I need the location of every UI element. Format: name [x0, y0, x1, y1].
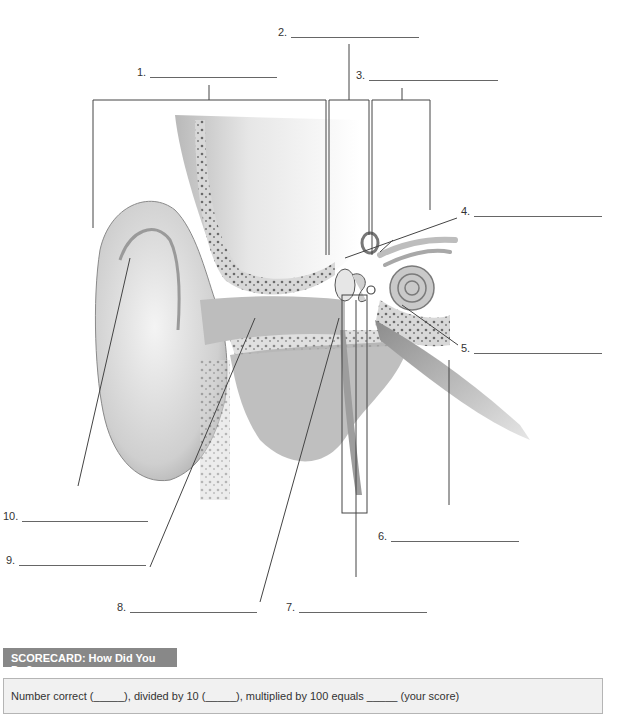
label-number: 8.: [117, 601, 126, 613]
label-number: 10.: [3, 510, 18, 522]
answer-blank[interactable]: [19, 555, 146, 566]
label-4[interactable]: 4.: [461, 205, 602, 217]
label-1[interactable]: 1.: [137, 66, 277, 78]
label-5[interactable]: 5.: [461, 342, 602, 354]
ear-diagram: 1. 2. 3. 4. 5. 6. 7. 8. 9. 10.: [0, 0, 626, 640]
answer-blank[interactable]: [299, 602, 427, 613]
label-10[interactable]: 10.: [3, 510, 148, 522]
answer-blank[interactable]: [474, 343, 602, 354]
label-8[interactable]: 8.: [117, 601, 257, 613]
answer-blank[interactable]: [369, 70, 498, 81]
label-number: 4.: [461, 205, 470, 217]
label-number: 2.: [278, 26, 287, 38]
ear-illustration: [0, 0, 626, 640]
label-2[interactable]: 2.: [278, 26, 419, 38]
scorecard-title: SCORECARD: How Did You Do?: [3, 648, 177, 667]
answer-blank[interactable]: [474, 206, 602, 217]
label-9[interactable]: 9.: [6, 554, 146, 566]
label-number: 3.: [356, 69, 365, 81]
answer-blank[interactable]: [130, 602, 257, 613]
label-number: 9.: [6, 554, 15, 566]
answer-blank[interactable]: [291, 27, 419, 38]
answer-blank[interactable]: [150, 67, 277, 78]
answer-blank[interactable]: [391, 531, 519, 542]
answer-blank[interactable]: [22, 511, 148, 522]
label-3[interactable]: 3.: [356, 69, 498, 81]
label-number: 7.: [286, 601, 295, 613]
label-number: 5.: [461, 342, 470, 354]
label-number: 1.: [137, 66, 146, 78]
scorecard: SCORECARD: How Did You Do? Number correc…: [3, 648, 603, 714]
scorecard-text: Number correct (_____), divided by 10 (_…: [3, 678, 603, 714]
label-number: 6.: [378, 530, 387, 542]
label-6[interactable]: 6.: [378, 530, 519, 542]
label-7[interactable]: 7.: [286, 601, 427, 613]
